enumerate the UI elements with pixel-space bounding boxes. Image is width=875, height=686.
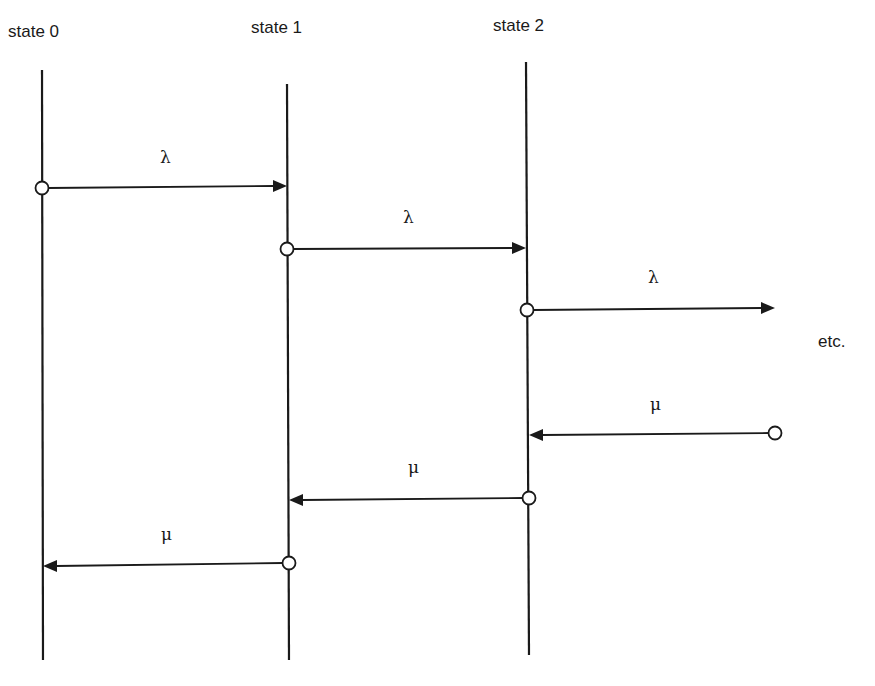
arrowhead-right-icon [761, 302, 775, 314]
lambda-label: λ [160, 147, 171, 167]
node-circle-icon [283, 557, 296, 570]
arrowhead-left-icon [43, 560, 57, 572]
lambda-label: λ [403, 207, 414, 227]
node-circle-icon [36, 182, 49, 195]
arrowhead-left-icon [289, 494, 303, 506]
arrowhead-left-icon [529, 429, 543, 441]
mu-label: μ [650, 394, 661, 414]
mu-label: μ [408, 457, 419, 477]
arrowhead-right-icon [273, 180, 287, 192]
node-circle-icon [523, 492, 536, 505]
transition-mu-2-1: μ [289, 457, 536, 506]
transition-lambda-0-1: λ [36, 147, 288, 195]
state-0-label: state 0 [8, 22, 59, 41]
state-1-label: state 1 [251, 18, 302, 37]
arrowhead-right-icon [512, 242, 526, 254]
state-1-timeline [287, 84, 289, 660]
transition-lambda-1-2: λ [281, 207, 527, 256]
transition-lambda-2-3: λ [521, 267, 776, 317]
state-0-timeline [42, 70, 43, 660]
state-2-label: state 2 [493, 16, 544, 35]
lambda-label: λ [648, 267, 659, 287]
mu-label: μ [161, 524, 172, 544]
state-2-timeline [526, 62, 529, 655]
node-circle-icon [769, 427, 782, 440]
etc-label: etc. [818, 332, 845, 351]
state-transition-diagram: state 0 state 1 state 2 λ λ λ etc. μ [0, 0, 875, 686]
transition-mu-1-0: μ [43, 524, 296, 572]
transition-mu-3-2: μ [529, 394, 782, 441]
node-circle-icon [521, 304, 534, 317]
node-circle-icon [281, 243, 294, 256]
